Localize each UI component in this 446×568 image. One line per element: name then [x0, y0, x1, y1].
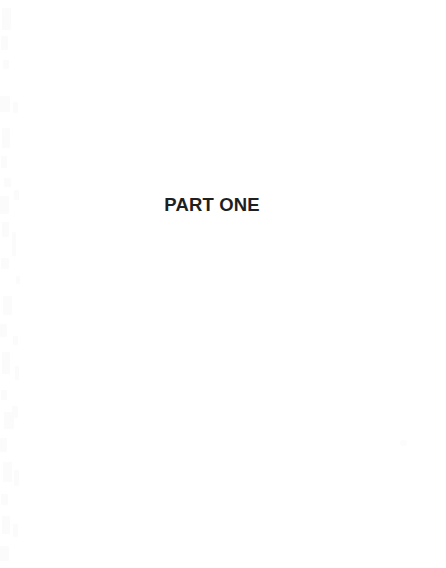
scan-fleck [1, 36, 8, 50]
scan-fleck [1, 258, 9, 269]
scan-fleck [4, 412, 14, 429]
scan-fleck [3, 296, 12, 315]
book-page: PART ONE [0, 0, 446, 568]
scan-fleck [0, 546, 9, 561]
scan-fleck [16, 276, 20, 284]
scan-fleck [13, 524, 18, 537]
scan-fleck [2, 516, 10, 534]
scan-fleck [3, 462, 12, 482]
part-title-block: PART ONE [0, 195, 446, 215]
scan-fleck [1, 390, 7, 400]
scan-fleck [2, 352, 10, 374]
scan-fleck [1, 494, 8, 505]
scan-fleck [12, 406, 18, 418]
scan-speck [400, 440, 407, 446]
scan-fleck [13, 336, 18, 345]
scan-fleck [14, 470, 19, 486]
scan-fleck [12, 232, 16, 256]
scan-fleck [1, 156, 7, 168]
scan-fleck [15, 366, 19, 380]
page-title: PART ONE [164, 195, 259, 214]
scan-fleck [0, 438, 7, 452]
scan-fleck [4, 178, 11, 187]
scan-fleck [0, 96, 10, 112]
scan-fleck [3, 60, 9, 69]
scan-artifact-layer [0, 0, 446, 568]
scan-fleck [0, 324, 7, 337]
scan-fleck [13, 102, 18, 113]
scan-fleck [2, 128, 10, 148]
scan-fleck [2, 8, 11, 30]
scan-fleck [2, 222, 9, 237]
